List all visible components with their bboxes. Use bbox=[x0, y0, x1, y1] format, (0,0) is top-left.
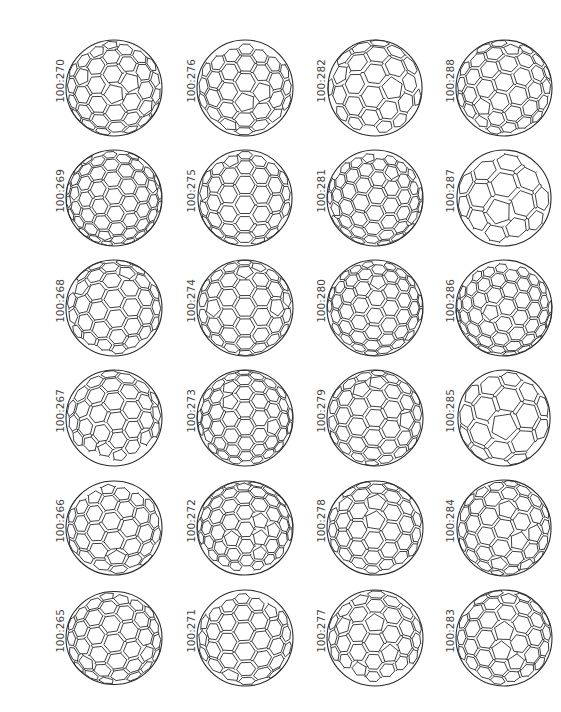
isomer-cell-100-282: 100:282 bbox=[283, 36, 413, 146]
isomer-cell-100-267: 100:267 bbox=[22, 366, 152, 476]
isomer-cell-100-271: 100:271 bbox=[153, 586, 283, 696]
isomer-cell-100-283: 100:283 bbox=[412, 586, 542, 696]
fullerene-wireframe-icon bbox=[325, 368, 425, 468]
fullerene-wireframe-icon bbox=[195, 478, 295, 578]
fullerene-wireframe-icon bbox=[64, 588, 164, 688]
isomer-cell-100-273: 100:273 bbox=[153, 366, 283, 476]
isomer-cell-100-278: 100:278 bbox=[283, 476, 413, 586]
fullerene-wireframe-icon bbox=[195, 38, 295, 138]
fullerene-wireframe-icon bbox=[64, 38, 164, 138]
isomer-cell-100-285: 100:285 bbox=[412, 366, 542, 476]
isomer-cell-100-284: 100:284 bbox=[412, 476, 542, 586]
fullerene-wireframe-icon bbox=[325, 38, 425, 138]
fullerene-wireframe-icon bbox=[325, 148, 425, 248]
isomer-cell-100-287: 100:287 bbox=[412, 146, 542, 256]
fullerene-wireframe-icon bbox=[64, 148, 164, 248]
isomer-cell-100-268: 100:268 bbox=[22, 256, 152, 366]
isomer-cell-100-265: 100:265 bbox=[22, 586, 152, 696]
fullerene-wireframe-icon bbox=[454, 38, 554, 138]
fullerene-wireframe-icon bbox=[64, 478, 164, 578]
fullerene-wireframe-icon bbox=[195, 368, 295, 468]
isomer-cell-100-280: 100:280 bbox=[283, 256, 413, 366]
fullerene-wireframe-icon bbox=[195, 258, 295, 358]
isomer-cell-100-288: 100:288 bbox=[412, 36, 542, 146]
isomer-cell-100-276: 100:276 bbox=[153, 36, 283, 146]
isomer-cell-100-275: 100:275 bbox=[153, 146, 283, 256]
isomer-cell-100-269: 100:269 bbox=[22, 146, 152, 256]
fullerene-wireframe-icon bbox=[454, 368, 554, 468]
isomer-cell-100-286: 100:286 bbox=[412, 256, 542, 366]
fullerene-wireframe-icon bbox=[325, 478, 425, 578]
fullerene-wireframe-icon bbox=[64, 368, 164, 468]
isomer-cell-100-281: 100:281 bbox=[283, 146, 413, 256]
fullerene-wireframe-icon bbox=[454, 258, 554, 358]
fullerene-wireframe-icon bbox=[325, 588, 425, 688]
fullerene-wireframe-icon bbox=[195, 148, 295, 248]
isomer-cell-100-279: 100:279 bbox=[283, 366, 413, 476]
fullerene-wireframe-icon bbox=[195, 588, 295, 688]
fullerene-wireframe-icon bbox=[325, 258, 425, 358]
isomer-cell-100-270: 100:270 bbox=[22, 36, 152, 146]
isomer-cell-100-266: 100:266 bbox=[22, 476, 152, 586]
fullerene-wireframe-icon bbox=[454, 478, 554, 578]
fullerene-wireframe-icon bbox=[454, 588, 554, 688]
isomer-cell-100-277: 100:277 bbox=[283, 586, 413, 696]
fullerene-isomer-grid: 100:270 100:269 100:268 100:267 100:266 … bbox=[0, 0, 561, 712]
fullerene-wireframe-icon bbox=[454, 148, 554, 248]
isomer-cell-100-272: 100:272 bbox=[153, 476, 283, 586]
fullerene-wireframe-icon bbox=[64, 258, 164, 358]
isomer-cell-100-274: 100:274 bbox=[153, 256, 283, 366]
